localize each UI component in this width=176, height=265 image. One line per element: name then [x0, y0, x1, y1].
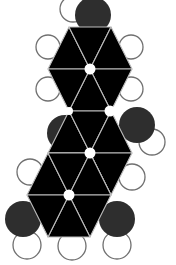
ring-center-hole [85, 64, 96, 75]
ring-junction-hole [65, 107, 73, 115]
molecule-diagram [0, 0, 176, 265]
molecule-svg [0, 0, 176, 265]
ring-center-hole [64, 190, 75, 201]
ring-center-hole [85, 148, 96, 159]
ring-junction-hole [105, 106, 116, 117]
